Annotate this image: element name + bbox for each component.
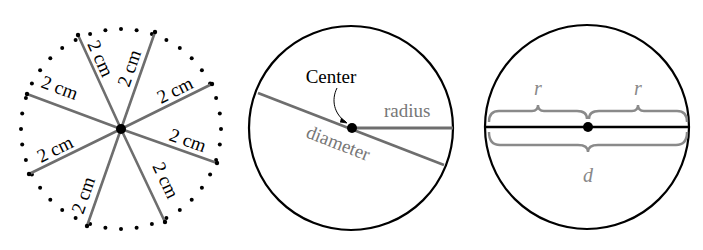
d-label: d [583,164,594,186]
circle-dot [48,56,52,60]
circle-dot [119,227,123,231]
center-point [116,124,126,134]
circle-dot [103,226,107,230]
circle-dot [119,27,123,31]
circle-dot [218,111,222,115]
radius-label: 2 cm [113,47,145,90]
radius-label: 2 cm [67,174,99,217]
right-radius-brace [589,105,687,122]
center-label: Center [306,66,357,87]
circle-dot [219,127,223,131]
circle-dot [150,222,154,226]
circle-dot [218,143,222,147]
circle-dot [200,186,204,190]
circle-dot [178,208,182,212]
circle-dot [74,38,78,42]
parts-figure: Center radius diameter [249,26,453,230]
r-label-left: r [534,77,542,99]
pointer-arrow [334,88,346,122]
radius-label: 2 cm [39,71,82,104]
circle-dot [60,208,64,212]
circle-dot [38,68,42,72]
left-radius-brace [489,105,587,122]
circle-dot [135,28,139,32]
center-point [583,122,593,132]
circle-dot [20,111,24,115]
circle-dot [135,226,139,230]
circle-dot [60,46,64,50]
circle-dot [24,96,28,100]
diameter-brace [489,132,687,152]
circle-dot [208,172,212,176]
circle-diagrams: 2 cm 2 cm 2 cm 2 cm 2 cm 2 cm 2 cm 2 cm … [0,0,703,250]
circle-dot [190,198,194,202]
circle-dot [200,68,204,72]
circle-dot [214,96,218,100]
radii-figure: 2 cm 2 cm 2 cm 2 cm 2 cm 2 cm 2 cm 2 cm [19,27,223,231]
r-label-right: r [634,77,642,99]
r-d-figure: r r d [485,25,689,229]
circle-dot [74,216,78,220]
circle-dot [19,127,23,131]
circle-dot [30,82,34,86]
circle-dot [178,46,182,50]
circle-dot [164,38,168,42]
circle-dot [24,158,28,162]
upper-braces [489,105,687,122]
circle-dot [48,198,52,202]
radius-label: radius [384,100,430,121]
circle-dot [103,28,107,32]
circle-dot [38,186,42,190]
arrow-head-icon [340,118,347,123]
circle-dot [20,143,24,147]
circle-dot [88,32,92,36]
circle-dot [190,56,194,60]
center-point [347,123,357,133]
